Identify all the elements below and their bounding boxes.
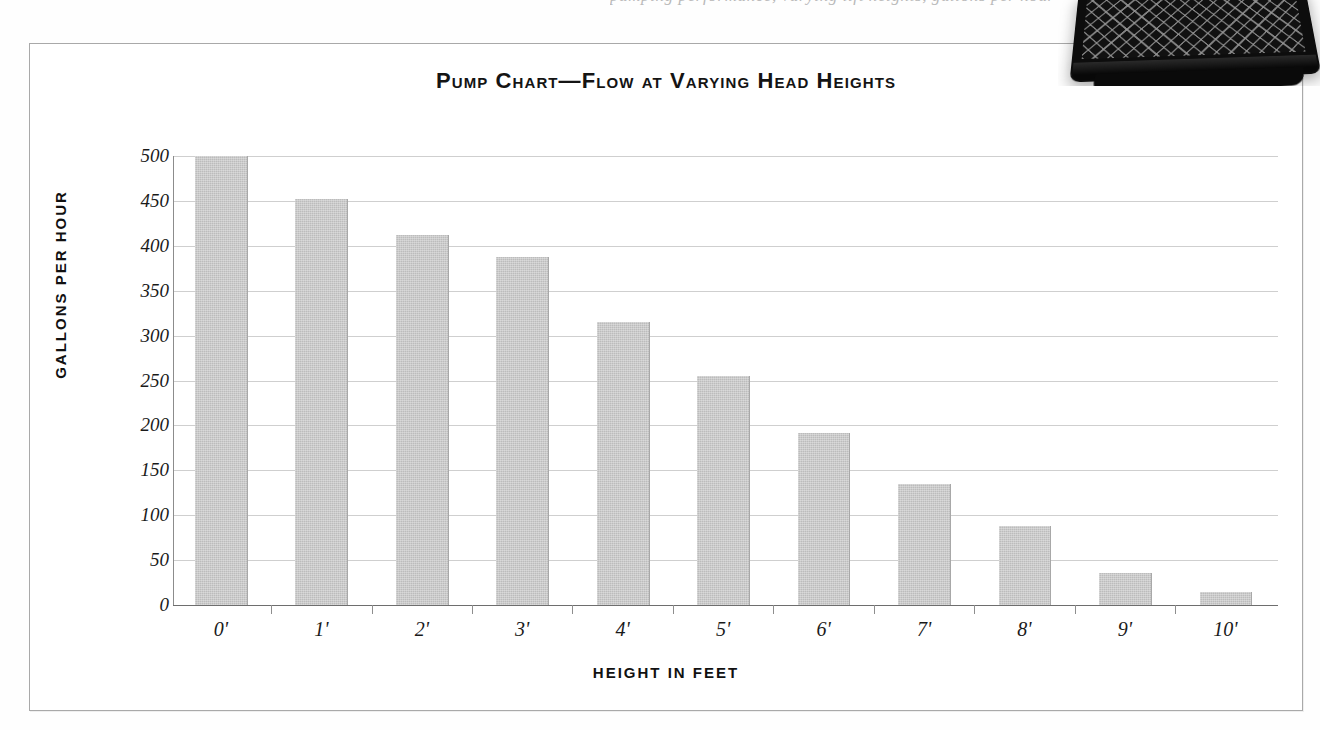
y-tick-label: 250 [99,370,169,392]
x-tick-mark [673,605,674,614]
x-axis-title: HEIGHT IN FEET [30,664,1302,681]
x-tick-label: 3' [490,618,554,641]
plot-area: 050100150200250300350400450500 0'1'2'3'4… [173,156,1278,605]
y-tick-label: 50 [99,549,169,571]
crate-body [1069,0,1320,82]
x-tick-label: 10' [1193,618,1257,641]
x-tick-label: 1' [289,618,353,641]
x-tick-mark [1075,605,1076,614]
x-tick-label: 7' [892,618,956,641]
y-tick-label: 150 [99,459,169,481]
clipped-caption-text: pumping performance, varying lift height… [610,0,1080,10]
x-tick-label: 9' [1093,618,1157,641]
x-tick-mark [472,605,473,614]
y-tick-label: 400 [99,235,169,257]
y-tick-label: 100 [99,504,169,526]
x-tick-mark [974,605,975,614]
x-tick-label: 2' [390,618,454,641]
y-tick-label: 300 [99,325,169,347]
x-tick-label: 5' [691,618,755,641]
x-axis-ticks: 0'1'2'3'4'5'6'7'8'9'10' [173,156,1278,605]
y-tick-label: 0 [99,594,169,616]
crate-photo [1058,0,1320,86]
plot-wrapper: GALLONS PER HOUR HEIGHT IN FEET 05010015… [30,44,1302,710]
y-tick-label: 350 [99,280,169,302]
x-tick-label: 0' [189,618,253,641]
crate-mesh-pattern [1082,0,1306,59]
x-tick-label: 8' [993,618,1057,641]
y-tick-label: 450 [99,190,169,212]
x-tick-mark [874,605,875,614]
x-tick-mark [271,605,272,614]
x-tick-mark [1175,605,1176,614]
y-tick-label: 200 [99,414,169,436]
gridline [173,605,1278,606]
chart-frame: Pump Chart—Flow at Varying Head Heights … [29,43,1303,711]
x-tick-mark [572,605,573,614]
y-tick-label: 500 [99,145,169,167]
x-tick-label: 4' [591,618,655,641]
x-tick-mark [372,605,373,614]
y-axis-title: GALLONS PER HOUR [52,105,69,465]
x-tick-label: 6' [792,618,856,641]
x-tick-mark [773,605,774,614]
